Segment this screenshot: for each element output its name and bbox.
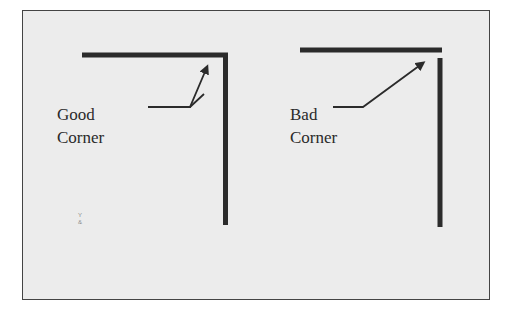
- good-label-line2: Corner: [57, 127, 104, 149]
- stray-mark-line1: Y: [76, 212, 84, 219]
- bad-corner-arrow: [333, 63, 423, 107]
- bad-label-line1: Bad: [290, 104, 317, 126]
- bad-label-line2: Corner: [290, 127, 337, 149]
- stray-mark-line2: &: [76, 219, 84, 226]
- good-label-line1: Good: [57, 104, 95, 126]
- corner-diagram: [0, 0, 514, 310]
- good-corner-arrow: [148, 67, 208, 107]
